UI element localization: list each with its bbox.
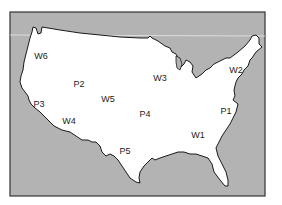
label-w1: W1	[191, 131, 205, 140]
label-w3: W3	[153, 74, 167, 83]
label-w2: W2	[229, 66, 243, 75]
label-p3: P3	[33, 100, 44, 109]
label-p2: P2	[73, 80, 84, 89]
label-w6: W6	[34, 52, 48, 61]
label-p4: P4	[139, 110, 150, 119]
label-p1: P1	[220, 107, 231, 116]
label-w4: W4	[62, 117, 76, 126]
label-w5: W5	[101, 95, 115, 104]
label-p5: P5	[119, 147, 130, 156]
